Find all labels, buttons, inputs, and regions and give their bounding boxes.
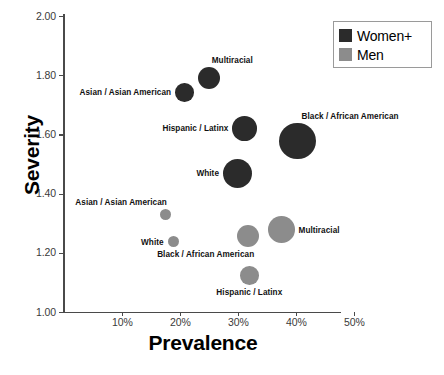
y-tick-1.20: 1.20 (0, 246, 56, 259)
y-axis-title: Severity (20, 80, 44, 230)
chart-legend: Women+Men (333, 21, 432, 68)
point-label: Black / African American (301, 111, 398, 120)
legend-swatch-icon (339, 48, 352, 61)
y-tick-mark (59, 75, 63, 76)
bubble-women--white[interactable] (223, 159, 252, 188)
legend-swatch-icon (339, 29, 352, 42)
y-tick-label: 2.00 (20, 10, 56, 22)
x-tick-mark (296, 312, 297, 316)
y-tick-label: 1.80 (20, 69, 56, 81)
point-label: Hispanic / Latinx (162, 124, 228, 133)
legend-label: Men (357, 48, 384, 62)
y-tick-1.00: 1.00 (0, 306, 56, 319)
bubble-women--multiracial[interactable] (198, 67, 220, 89)
y-tick-label: 1.20 (20, 246, 56, 258)
point-label: Multiracial (299, 225, 340, 234)
x-tick-mark (122, 312, 123, 316)
x-axis-title: Prevalence (63, 331, 343, 355)
bubble-women--hispanic-latinx[interactable] (232, 116, 257, 141)
x-tick-label-40%: 40% (276, 316, 316, 328)
bubble-women--asian-asian-american[interactable] (175, 83, 194, 102)
bubble-men-black-african-american[interactable] (237, 225, 259, 247)
x-tick-label-10%: 10% (102, 316, 142, 328)
x-tick-label-30%: 30% (218, 316, 258, 328)
point-label: White (196, 169, 219, 178)
x-tick-label-20%: 20% (160, 316, 200, 328)
point-label: Asian / Asian American (80, 88, 172, 97)
point-label: Hispanic / Latinx (216, 288, 282, 297)
y-tick-mark (59, 253, 63, 254)
y-tick-2.00: 2.00 (0, 10, 56, 23)
legend-label: Women+ (357, 29, 412, 43)
y-tick-mark (59, 312, 63, 313)
x-tick-mark (238, 312, 239, 316)
point-label: White (141, 237, 164, 246)
bubble-men-white[interactable] (168, 236, 179, 247)
point-label: Asian / Asian American (75, 198, 167, 207)
y-tick-mark (59, 194, 63, 195)
point-label: Multiracial (212, 56, 253, 65)
bubble-men-multiracial[interactable] (268, 216, 295, 243)
bubble-men-hispanic-latinx[interactable] (240, 266, 259, 285)
bubble-chart: 1.001.201.401.601.802.00 10%20%30%40%50%… (0, 0, 444, 375)
bubble-men-asian-asian-american[interactable] (160, 209, 171, 220)
x-axis-line (63, 312, 341, 314)
legend-item-men[interactable]: Men (339, 45, 426, 64)
y-tick-label: 1.00 (20, 306, 56, 318)
bubble-women--black-african-american[interactable] (279, 123, 316, 160)
legend-item-women-[interactable]: Women+ (339, 26, 426, 45)
x-tick-mark (354, 312, 355, 316)
point-label: Black / African American (157, 249, 254, 258)
x-tick-mark (180, 312, 181, 316)
y-tick-mark (59, 16, 63, 17)
y-axis-line (63, 14, 65, 313)
x-tick-label-50%: 50% (334, 316, 374, 328)
y-tick-mark (59, 134, 63, 135)
